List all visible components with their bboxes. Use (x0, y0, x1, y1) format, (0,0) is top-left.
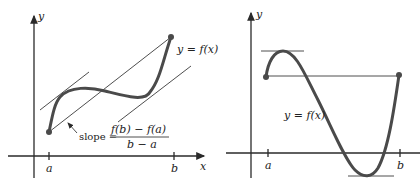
left-diagram: y x a b y = f(x) slope = f(b) − f(a) b −… (8, 10, 218, 178)
figure: y x a b y = f(x) slope = f(b) − f(a) b −… (0, 0, 420, 187)
tangent-line-left (40, 72, 89, 110)
y-axis-label: y (37, 10, 45, 23)
tick-a-label: a (46, 162, 53, 175)
endpoint-a (46, 129, 52, 135)
endpoint-b (396, 72, 402, 78)
tick-b-label: b (171, 162, 178, 175)
tangent-line-right (118, 66, 191, 122)
y-axis-label: y (255, 8, 263, 21)
secant-line (49, 37, 171, 132)
right-diagram: y a b y = f(x) (226, 8, 420, 178)
x-axis-label: x (200, 160, 207, 173)
curve-label: y = f(x) (176, 43, 218, 56)
annotation-arrow (68, 123, 77, 133)
tick-b-label: b (397, 159, 404, 172)
slope-denominator: b − a (127, 138, 157, 151)
slope-numerator: f(b) − f(a) (110, 123, 166, 136)
endpoint-a (263, 74, 269, 80)
curve-label: y = f(x) (283, 109, 325, 122)
endpoint-b (168, 34, 174, 40)
tick-a-label: a (265, 159, 272, 172)
